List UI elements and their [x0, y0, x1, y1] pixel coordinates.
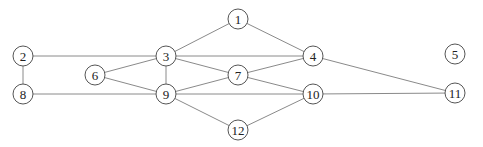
edge-3-7 [166, 56, 238, 75]
node-2: 2 [13, 46, 33, 66]
node-label: 8 [20, 87, 27, 102]
node-label: 6 [92, 68, 99, 83]
edge-4-7 [238, 56, 313, 75]
edge-10-12 [238, 94, 313, 130]
node-7: 7 [228, 65, 248, 85]
graph-diagram: 123456789101112 [0, 0, 483, 147]
edge-1-3 [166, 19, 238, 56]
node-label: 4 [310, 49, 317, 64]
edge-7-10 [238, 75, 313, 94]
edge-7-9 [166, 75, 238, 94]
node-11: 11 [445, 83, 465, 103]
node-1: 1 [228, 9, 248, 29]
node-label: 1 [235, 12, 242, 27]
node-3: 3 [156, 46, 176, 66]
node-12: 12 [228, 120, 248, 140]
edge-10-11 [313, 93, 455, 94]
node-label: 2 [20, 49, 27, 64]
node-label: 9 [163, 87, 170, 102]
edge-6-9 [95, 75, 166, 94]
node-5: 5 [445, 44, 465, 64]
node-4: 4 [303, 46, 323, 66]
edge-1-4 [238, 19, 313, 56]
node-label: 11 [449, 86, 462, 101]
node-10: 10 [303, 84, 323, 104]
node-label: 12 [232, 123, 245, 138]
node-6: 6 [85, 65, 105, 85]
edge-4-11 [313, 56, 455, 93]
edge-3-6 [95, 56, 166, 75]
node-label: 7 [235, 68, 242, 83]
node-label: 3 [163, 49, 170, 64]
node-8: 8 [13, 84, 33, 104]
node-layer: 123456789101112 [13, 9, 465, 140]
node-label: 5 [452, 47, 459, 62]
edge-9-12 [166, 94, 238, 130]
node-label: 10 [307, 87, 320, 102]
node-9: 9 [156, 84, 176, 104]
